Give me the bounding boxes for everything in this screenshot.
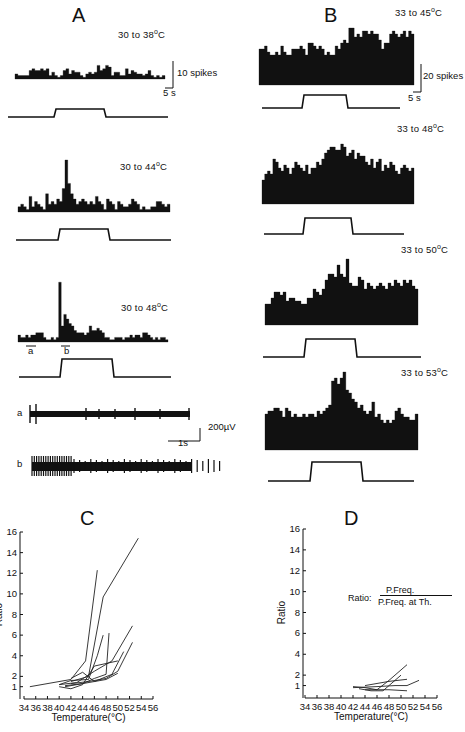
plot-d-y-tick-label: 12	[289, 565, 300, 576]
stimulus-b-45c	[262, 95, 400, 108]
plot-d-y-tick-label: 2	[295, 669, 300, 680]
scale-label-20-spikes: 20 spikes	[423, 70, 463, 81]
plot-c-series-line	[59, 661, 118, 689]
stimulus-b-48c	[264, 218, 404, 234]
plot-c-x-tick-label: 54	[136, 702, 147, 713]
panel-letter-a: A	[72, 4, 85, 27]
temp-label-b1: 33 to 45oC	[395, 6, 442, 18]
plot-c-x-tick-label: 52	[124, 702, 135, 713]
formula-denominator: P.Freq. at Th.	[378, 597, 432, 607]
plot-d-series-line	[353, 680, 419, 687]
plot-d-y-tick-label: 6	[295, 627, 300, 638]
stimulus-b-50c	[263, 339, 421, 357]
raw-label-a: a	[17, 407, 22, 418]
histogram-b-50c	[265, 259, 418, 325]
panel-letter-c: C	[80, 507, 94, 530]
plot-c-x-tick-label: 36	[30, 702, 41, 713]
plot-d-y-tick-label: 10	[289, 586, 300, 597]
histogram-b-45c	[259, 28, 414, 85]
plot-d-x-tick-label: 54	[420, 701, 431, 712]
plot-c-x-axis-label: Temperature(°C)	[51, 712, 125, 723]
plot-d-x-tick-label: 36	[312, 701, 323, 712]
stimulus-a-38c	[8, 109, 168, 117]
plot-c-series-line	[71, 642, 133, 683]
plot-d-y-tick-label: 4	[295, 648, 300, 659]
plot-c: 1246810121416343638404244464850525456Tem…	[0, 526, 158, 723]
plot-c-x-tick-label: 34	[19, 702, 30, 713]
plot-d-y-tick-label: 8	[295, 607, 300, 618]
plot-c-y-tick-label: 1	[12, 681, 17, 692]
plot-d-y-axis-label: Ratio	[276, 600, 287, 624]
scale-label-10-spikes: 10 spikes	[177, 67, 217, 78]
plot-d-x-axis-label: Temperature(°C)	[334, 711, 408, 722]
plot-c-y-axis-label: Ratio	[0, 602, 4, 626]
scale-label-1s: 1s	[178, 437, 188, 448]
scale-label-5s-b: 5 s	[408, 92, 421, 103]
scale-bar-a	[165, 61, 173, 88]
plot-c-series-line	[30, 570, 97, 687]
plot-d-x-tick-label: 34	[300, 701, 311, 712]
plot-d-y-tick-label: 14	[289, 544, 300, 555]
plot-d-y-tick-label: 1	[295, 680, 300, 691]
plot-c-y-tick-label: 12	[6, 567, 17, 578]
plot-c-y-tick-label: 4	[12, 650, 17, 661]
scale-label-200uv: 200µV	[208, 421, 236, 432]
raw-trace-b	[32, 462, 192, 471]
plot-d-x-tick-label: 38	[324, 701, 335, 712]
histogram-b-53c	[265, 372, 418, 450]
scale-bar-b	[413, 64, 421, 92]
stimulus-a-44c	[16, 229, 171, 240]
raw-trace-a	[30, 411, 190, 417]
formula-lhs: Ratio:	[348, 593, 372, 603]
plot-c-y-tick-label: 8	[12, 609, 17, 620]
figure-canvas: 1246810121416343638404244464850525456Tem…	[0, 0, 465, 732]
plot-c-y-tick-label: 2	[12, 670, 17, 681]
histogram-b-48c	[262, 144, 414, 204]
plot-d-x-tick-label: 52	[408, 701, 419, 712]
temp-label-a2: 30 to 44oC	[120, 160, 167, 172]
plot-c-y-tick-label: 14	[6, 547, 17, 558]
formula-bar	[380, 595, 452, 596]
scale-label-5s-a: 5 s	[163, 87, 176, 98]
plot-c-series-line	[71, 538, 138, 681]
temp-label-a3: 30 to 48oC	[121, 301, 168, 313]
stimulus-b-53c	[268, 462, 414, 481]
temp-label-b4: 33 to 53oC	[401, 366, 448, 378]
panel-letter-d: D	[344, 507, 358, 530]
stimulus-a-48c	[19, 359, 171, 377]
plot-c-x-tick-label: 56	[148, 702, 159, 713]
plot-c-y-tick-label: 6	[12, 629, 17, 640]
raw-label-b: b	[17, 458, 22, 469]
formula-numerator: P.Freq.	[386, 585, 414, 595]
panel-b-histograms	[259, 28, 421, 450]
plot-c-y-tick-label: 16	[6, 526, 17, 537]
panel-letter-b: B	[324, 4, 337, 27]
marker-a: a	[28, 345, 33, 356]
temp-label-a1: 30 to 38oC	[118, 28, 165, 40]
plot-d-y-tick-label: 16	[289, 523, 300, 534]
temp-label-b2: 33 to 48oC	[397, 122, 444, 134]
plot-d-x-tick-label: 56	[432, 701, 443, 712]
marker-b: b	[64, 345, 69, 356]
raw-recordings	[30, 404, 220, 476]
plot-c-y-tick-label: 10	[6, 588, 17, 599]
plot-d: 1246810121416343638404244464850525456Tem…	[276, 523, 442, 722]
histogram-a-38c	[15, 65, 165, 79]
temp-label-b3: 33 to 50oC	[401, 243, 448, 255]
